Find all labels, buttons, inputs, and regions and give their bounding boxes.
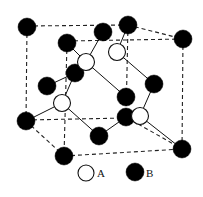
atom-b (119, 16, 137, 34)
atom-b (38, 77, 56, 95)
edge-right-vertical (182, 39, 183, 149)
atom-b (145, 75, 163, 93)
atom-b (17, 112, 35, 130)
atom-a (132, 108, 149, 125)
atom-b (117, 88, 135, 106)
atom-b (94, 23, 112, 41)
legend-b-symbol (126, 163, 144, 181)
edge-bottom-front (64, 149, 182, 156)
atoms-b (17, 16, 192, 165)
atom-a (78, 54, 95, 71)
edge-bottom-back (26, 118, 126, 120)
edge-left-vertical (26, 27, 27, 121)
edge-top-back (27, 25, 128, 26)
legend-b-label: B (146, 167, 153, 179)
atoms-a (54, 44, 149, 125)
atom-b (18, 18, 36, 36)
atom-b (90, 127, 108, 145)
crystal-structure-diagram: A B (0, 0, 203, 197)
atom-a (54, 95, 71, 112)
legend-a-label: A (97, 167, 105, 179)
atom-b (173, 140, 191, 158)
edge-top-front (67, 39, 183, 41)
atom-b (174, 30, 192, 48)
atom-a (109, 44, 126, 61)
atom-b (58, 34, 76, 52)
legend: A B (78, 163, 153, 181)
atom-b (55, 147, 73, 165)
legend-a-symbol (78, 165, 94, 181)
